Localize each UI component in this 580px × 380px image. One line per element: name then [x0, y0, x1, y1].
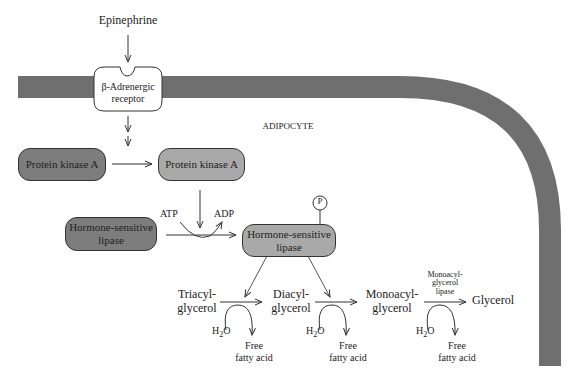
receptor-label: β-Adrenergic receptor: [94, 81, 162, 104]
monoacylglycerol-label: Monoacyl- glycerol: [360, 288, 424, 316]
hsl-inactive-line2: lipase: [69, 234, 153, 247]
phosphate-label: P: [313, 196, 327, 206]
receptor-line2: receptor: [94, 93, 162, 105]
free-fatty-acid-2: Free fatty acid: [326, 340, 370, 363]
hsl-active-line2: lipase: [247, 241, 331, 254]
hsl-inactive-box: Hormone-sensitive lipase: [65, 217, 157, 251]
receptor-line1: β-Adrenergic: [94, 81, 162, 93]
pka-inactive-box: Protein kinase A: [18, 148, 106, 181]
ffa2-line2: fatty acid: [326, 352, 370, 364]
pka-active-box: Protein kinase A: [158, 148, 245, 181]
diagram-canvas: [0, 0, 580, 380]
pka-active-label: Protein kinase A: [165, 158, 238, 171]
triacylglycerol-label: Triacyl- glycerol: [172, 288, 222, 316]
mag-line1: Monoacyl-: [360, 288, 424, 302]
atp-label: ATP: [160, 208, 178, 220]
dag-line1: Diacyl-: [266, 288, 316, 302]
water-label-3: H2O: [416, 325, 434, 339]
adp-label: ADP: [214, 208, 234, 220]
hsl-active-box: Hormone-sensitive lipase: [242, 224, 336, 257]
hsl-inactive-line1: Hormone-sensitive: [69, 221, 153, 234]
tag-line1: Triacyl-: [172, 288, 222, 302]
ffa1-line2: fatty acid: [232, 352, 276, 364]
diacylglycerol-label: Diacyl- glycerol: [266, 288, 316, 316]
ffa2-line1: Free: [326, 340, 370, 352]
glycerol-label: Glycerol: [472, 294, 514, 308]
hsl-active-line1: Hormone-sensitive: [247, 228, 331, 241]
mag-line2: glycerol: [360, 302, 424, 316]
water-label-2: H2O: [306, 325, 324, 339]
adipocyte-label: ADIPOCYTE: [258, 121, 318, 131]
epinephrine-label: Epinephrine: [92, 14, 164, 28]
mgl-line3: lipase: [420, 288, 470, 296]
tag-line2: glycerol: [172, 302, 222, 316]
free-fatty-acid-3: Free fatty acid: [435, 340, 479, 363]
dag-line2: glycerol: [266, 302, 316, 316]
free-fatty-acid-1: Free fatty acid: [232, 340, 276, 363]
ffa3-line2: fatty acid: [435, 352, 479, 364]
pka-inactive-label: Protein kinase A: [26, 158, 99, 171]
ffa1-line1: Free: [232, 340, 276, 352]
mgl-enzyme-label: Monoacyl- glycerol lipase: [420, 271, 470, 296]
ffa3-line1: Free: [435, 340, 479, 352]
water-label-1: H2O: [212, 325, 230, 339]
